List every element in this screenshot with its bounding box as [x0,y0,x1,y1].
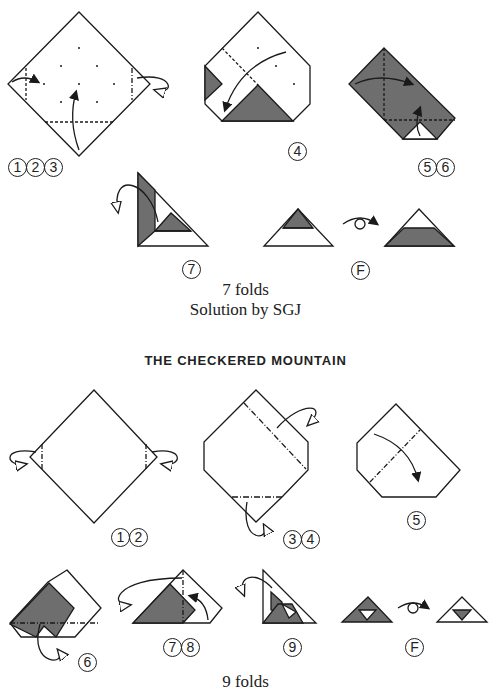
step-number: 7 [182,260,201,279]
solution-credit: Solution by SGJ [0,300,491,320]
p2-final-right-figure [437,597,487,622]
p1-step123-figure [8,12,168,156]
step-number: F [405,638,424,657]
folds-count: 7 folds [0,280,491,300]
step-number: 2 [129,528,148,547]
p2-step5-figure [357,404,460,497]
step-number: 1 [111,528,130,547]
p1-step4-figure [205,12,310,121]
puzzle-title: THE CHECKERED MOUNTAIN [0,353,491,368]
p2-step6-figure [10,570,101,660]
p1-step7-figure [117,173,208,246]
step-number: 6 [436,158,455,177]
p1-turnover-icon [343,218,377,229]
step-number: 4 [288,142,307,161]
step-label-34: 34 [283,530,319,549]
p1-final-left-figure [264,209,333,246]
step-label-56: 56 [418,158,454,177]
step-number: 3 [44,158,63,177]
step-number: 8 [181,638,200,657]
p2-step9-figure [242,570,316,623]
step-number: 5 [418,158,437,177]
step-label-9: 9 [283,638,301,657]
step-label-5: 5 [407,511,425,530]
p2-step78-figure [119,570,222,623]
step-number: 6 [78,653,97,672]
step-label-12: 12 [111,528,147,547]
step-number: 9 [283,638,302,657]
step-label-4: 4 [288,142,306,161]
step-label-F2: F [405,638,423,657]
step-label-78: 78 [163,638,199,657]
p2-turnover-icon [398,603,428,613]
step-number: 4 [301,530,320,549]
step-number: 1 [8,158,27,177]
p2-final-left-figure [342,597,392,622]
p1-final-right-figure [385,209,454,246]
step-number: 2 [26,158,45,177]
step-label-123: 123 [8,158,62,177]
p2-step34-figure [204,390,316,536]
step-label-F: F [351,261,369,280]
step-number: 7 [163,638,182,657]
step-number: 5 [407,511,426,530]
step-label-6: 6 [78,653,96,672]
step-number: F [351,261,370,280]
step-number: 3 [283,530,302,549]
p1-step56-figure [349,48,455,139]
step-label-7: 7 [182,260,200,279]
folds-count-2: 9 folds [0,672,491,691]
p2-step12-figure [10,390,177,523]
